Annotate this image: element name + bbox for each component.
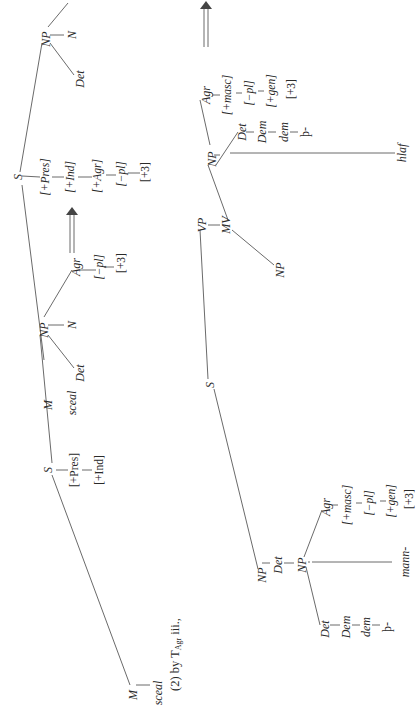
tree3-vp-agr-gen: [+gen] — [266, 74, 278, 107]
tree3-subject-agr-pl: [−pl] — [364, 490, 376, 516]
tree3-vp-thorn-leaf: þ- — [299, 127, 311, 137]
tree1-det-node: Det — [74, 364, 86, 381]
tree3-vp-np-node: NP — [206, 151, 218, 166]
tree3-subject-inner-det-node: Det — [319, 620, 331, 637]
tree3-subject-agr-gen: [+gen] — [386, 484, 398, 517]
tree2-feature-3: [+3] — [140, 162, 152, 182]
tree3-s-node: S — [204, 382, 216, 388]
tree2-det-node: Det — [74, 70, 86, 87]
tree1-s-node: S — [42, 467, 54, 473]
rotated-page: M sceal S [+Pres] [+Ind] NP Det N Agr [−… — [0, 0, 417, 725]
caption-prefix: (2) by T — [168, 650, 182, 691]
tree1-agr-feature-3: [+3] — [116, 253, 128, 273]
tree3-subject-inner-np-node: NP — [296, 557, 308, 572]
caption-subscript: Agr — [174, 638, 183, 650]
tree1-np-node: NP — [38, 322, 50, 337]
tree3-subject-agr-node: Agr — [320, 498, 332, 516]
tree3-object-np-node: NP — [274, 262, 286, 277]
caption-suffix: iii., — [168, 618, 182, 638]
tree3-subject-noun-leaf: mann- — [399, 547, 411, 578]
tree1-n-node: N — [66, 321, 78, 329]
tree2-s-node: S — [12, 174, 24, 180]
tree-lines — [0, 0, 417, 725]
tree2-feature-pres: [+Pres] — [40, 158, 52, 195]
tree3-vp-agr-pl: [−pl] — [244, 80, 256, 106]
tree1-feature-ind: [+Ind] — [94, 455, 106, 484]
tree3-subject-agr-masc: [+masc] — [342, 485, 354, 525]
tree3-vp-agr-masc: [+masc] — [222, 75, 234, 115]
tree2-sceal-leaf: sceal — [66, 391, 78, 416]
tree3-mv-node: MV — [220, 216, 232, 233]
figure-caption: (2) by TAgr iii., — [168, 618, 183, 691]
tree1-feature-pres: [+Pres] — [69, 453, 81, 487]
tree2-feature-pl: [−pl] — [116, 161, 128, 187]
tree3-vp-noun-leaf: hlaf — [396, 144, 408, 163]
tree2-feature-agr: [+Agr] — [92, 159, 104, 193]
tree2-feature-ind: [+Ind] — [65, 161, 77, 193]
tree3-vp-dem-node: Dem — [256, 121, 268, 144]
tree3-subject-agr-3: [+3] — [404, 489, 416, 509]
tree3-subject-det-node: Det — [272, 556, 284, 573]
tree2-n-node: N — [66, 31, 78, 39]
tree1-m-node: M — [127, 690, 139, 700]
tree3-vp-agr-node: Agr — [200, 86, 212, 104]
tree3-subject-dem-node: Dem — [340, 616, 352, 639]
tree3-subject-np-node: NP — [256, 567, 268, 582]
tree3-vp-node: VP — [196, 218, 208, 233]
tree2-m-node: M — [42, 400, 54, 410]
tree3-vp-dem-lower: dem — [278, 122, 290, 142]
tree1-sceal-leaf: sceal — [152, 681, 164, 706]
tree3-vp-det-node: Det — [236, 123, 248, 140]
tree2-np-node: NP — [40, 31, 52, 46]
tree3-vp-agr-3: [+3] — [286, 79, 298, 99]
tree1-agr-node: Agr — [70, 258, 82, 276]
tree1-agr-feature-pl: [−pl] — [94, 254, 106, 280]
tree3-subject-thorn-leaf: þ- — [381, 622, 393, 632]
tree3-subject-dem-lower: dem — [360, 617, 372, 637]
